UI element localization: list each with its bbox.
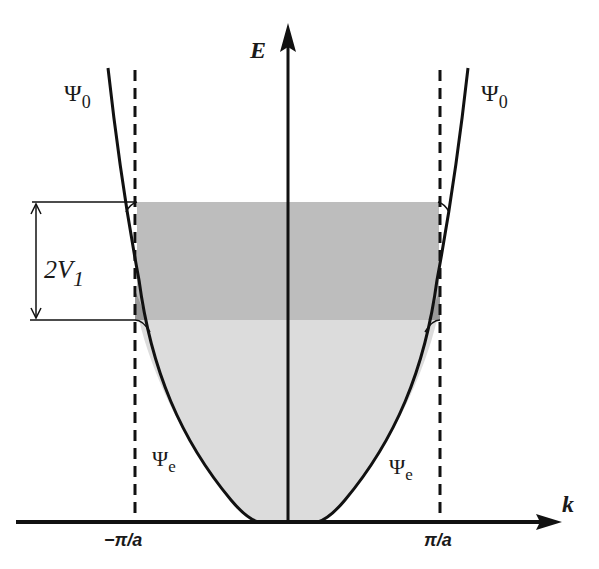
psie-left-label: Ψe — [152, 446, 176, 476]
psi0-left-label: Ψ0 — [64, 80, 91, 112]
tick-label-left: −π/a — [104, 530, 142, 550]
gap-label-subscript: 1 — [73, 266, 84, 291]
band-structure-diagram: E k 2V1 Ψ0 Ψ0 Ψe Ψe −π/a π/a — [0, 0, 599, 569]
gap-label: 2V1 — [44, 255, 84, 291]
gap-label-main: 2V — [44, 255, 76, 284]
psi0-right-label: Ψ0 — [481, 80, 508, 112]
psie-right-label: Ψe — [389, 454, 413, 484]
k-axis-label: k — [562, 491, 574, 517]
e-axis-label: E — [249, 37, 266, 63]
tick-label-right: π/a — [424, 530, 452, 550]
